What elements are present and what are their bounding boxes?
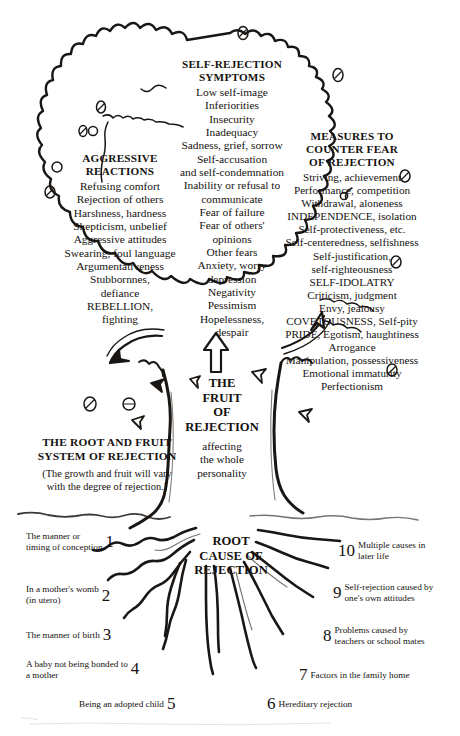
root-item-8: 8 Problems caused by teachers or school … <box>323 625 425 647</box>
canopy-right-item-14: Manipulation, possessiveness <box>268 354 436 367</box>
canopy-right-list: Striving, achievementPerformance, compet… <box>268 171 436 394</box>
canopy-right-heading: MEASURES TO COUNTER FEAR OF REJECTION <box>268 130 436 169</box>
canopy-right-item-9: Criticism, judgment <box>268 289 436 302</box>
root-item-5-label: Being an adopted child <box>79 699 164 710</box>
canopy-right-item-13: Arrogance <box>268 341 436 354</box>
fruit-of-rejection-label: THE FRUIT OF REJECTION <box>170 376 274 434</box>
root-cause-heading: ROOT CAUSE OF REJECTION <box>176 534 286 578</box>
canopy-right-item-12: PRIDE, Egotism, haughtiness <box>268 328 436 341</box>
root-item-6: 6 Hereditary rejection <box>267 694 352 715</box>
canopy-left-item-9: REBELLION, fighting <box>48 300 192 327</box>
canopy-left-item-2: Rejection of others <box>48 193 192 206</box>
canopy-column-left: AGGRESSIVE REACTIONS Refusing comfortRej… <box>48 152 192 327</box>
root-item-2: In a mother's womb (in utero) 2 <box>26 584 110 606</box>
ground-line <box>18 513 170 519</box>
root-item-8-number: 8 <box>323 626 332 647</box>
root-item-1: The manner or timing of conception 1 <box>26 531 114 553</box>
canopy-center-item-2: Inferiorities <box>138 99 326 112</box>
root-item-4: A baby not being bonded to a mother 4 <box>26 659 139 681</box>
root-item-4-label: A baby not being bonded to a mother <box>26 659 128 681</box>
root-item-2-number: 2 <box>102 586 111 607</box>
root-item-3: The manner of birth 3 <box>26 625 111 646</box>
root-item-7-label: Factors in the family home <box>311 670 410 681</box>
rejection-tree-diagram: SELF-REJECTION SYMPTOMS Low self-imageIn… <box>0 0 460 736</box>
canopy-right-item-3: Withdrawal, aloneness <box>268 197 436 210</box>
root-item-5-number: 5 <box>167 694 176 715</box>
root-item-7: 7 Factors in the family home <box>299 665 410 686</box>
canopy-right-item-15: Emotional immaturity <box>268 367 436 380</box>
root-item-1-number: 1 <box>106 532 115 553</box>
canopy-left-item-5: Aggressive attitudes <box>48 233 192 246</box>
canopy-right-item-2: Performance, competition <box>268 184 436 197</box>
canopy-left-heading: AGGRESSIVE REACTIONS <box>48 152 192 178</box>
root-item-6-label: Hereditary rejection <box>279 699 353 710</box>
root-item-6-number: 6 <box>267 694 276 715</box>
root-item-1-label: The manner or timing of conception <box>26 531 103 553</box>
canopy-left-item-1: Refusing comfort <box>48 180 192 193</box>
canopy-right-item-1: Striving, achievement <box>268 171 436 184</box>
root-item-2-label: In a mother's womb (in utero) <box>26 584 99 606</box>
canopy-left-item-7: Argumentativeness <box>48 260 192 273</box>
root-item-4-number: 4 <box>131 659 140 680</box>
root-and-fruit-system-heading: THE ROOT AND FRUIT SYSTEM OF REJECTION <box>24 436 190 463</box>
root-item-5: Being an adopted child 5 <box>79 694 175 715</box>
trunk-top-left <box>139 360 163 376</box>
canopy-center-item-1: Low self-image <box>138 86 326 99</box>
root-item-3-label: The manner of birth <box>26 630 100 641</box>
canopy-left-item-3: Harshness, hardness <box>48 207 192 220</box>
root-item-10-label: Multiple causes in later life <box>358 540 425 562</box>
canopy-right-item-6: Self-centeredness, selfishness <box>268 236 436 249</box>
root-item-9: 9 Self-rejection caused by one's own att… <box>333 582 433 604</box>
root-item-9-number: 9 <box>333 583 342 604</box>
canopy-right-item-7: Self-justification, self-righteousness <box>268 250 436 276</box>
arrow-left-curve <box>110 336 162 363</box>
canopy-center-heading: SELF-REJECTION SYMPTOMS <box>138 58 326 84</box>
root-item-3-number: 3 <box>103 625 112 646</box>
root-item-8-label: Problems caused by teachers or school ma… <box>335 625 425 647</box>
canopy-right-item-5: Self-protectiveness, etc. <box>268 223 436 236</box>
arrow-left-head <box>110 350 129 363</box>
canopy-center-item-3: Insecurity <box>138 113 326 126</box>
canopy-right-item-16: Perfectionism <box>268 380 436 393</box>
canopy-left-item-4: Skepticism, unbelief <box>48 220 192 233</box>
root-item-7-number: 7 <box>299 665 308 686</box>
root-item-9-label: Self-rejection caused by one's own attit… <box>345 582 434 604</box>
canopy-column-right: MEASURES TO COUNTER FEAR OF REJECTION St… <box>268 130 436 394</box>
canopy-right-item-10: Envy, jealousy <box>268 302 436 315</box>
root-item-10: 10 Multiple causes in later life <box>338 540 425 562</box>
scan-artifacts <box>22 718 330 725</box>
root-and-fruit-system-note: (The growth and fruit will vary with the… <box>24 468 190 493</box>
canopy-right-item-11: COVETOUSNESS, Self-pity <box>268 315 436 328</box>
canopy-left-item-6: Swearing, foul language <box>48 247 192 260</box>
ground-line-right <box>250 515 418 520</box>
canopy-left-list: Refusing comfortRejection of othersHarsh… <box>48 180 192 327</box>
canopy-right-item-8: SELF-IDOLATRY <box>268 276 436 289</box>
canopy-right-item-4: INDEPENDENCE, isolation <box>268 210 436 223</box>
root-and-fruit-system-block: THE ROOT AND FRUIT SYSTEM OF REJECTION (… <box>24 436 190 493</box>
root-item-10-number: 10 <box>338 541 355 562</box>
canopy-left-item-8: Stubbornnes, defiance <box>48 273 192 300</box>
